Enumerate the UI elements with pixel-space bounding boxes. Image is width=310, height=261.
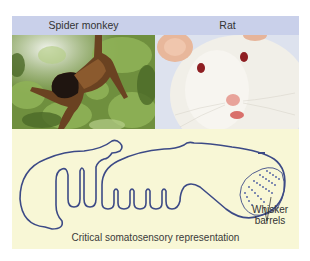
whisker-barrels-label: Whisker barrels [245,204,295,226]
somatosensory-panel: Whisker barrels Critical somatosensory r… [12,129,299,249]
small-marker [258,152,265,154]
whisker-label-line2: barrels [245,215,295,226]
monkey-cortex-outline [20,140,122,229]
rat-photo [155,35,299,129]
photos-row [12,35,299,129]
header-band: Spider monkey Rat [12,16,299,35]
whisker-label-line1: Whisker [245,204,295,215]
panel-caption: Critical somatosensory representation [12,232,299,243]
label-rat: Rat [156,19,299,31]
spider-monkey-photo [12,35,155,129]
label-spider-monkey: Spider monkey [12,19,155,31]
figure: Spider monkey Rat [12,16,299,249]
